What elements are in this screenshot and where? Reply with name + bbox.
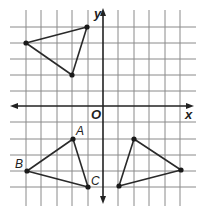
x-axis-left-arrow-icon (10, 103, 18, 109)
vertex-b-label: B (15, 157, 23, 171)
origin-label: O (91, 107, 101, 122)
vertex-c-label: C (91, 174, 100, 188)
vertex-a-point (70, 136, 75, 141)
x-axis (10, 103, 194, 109)
vertex-point (84, 24, 89, 29)
vertex-point (131, 136, 136, 141)
vertex-point (116, 183, 121, 188)
vertex-point (23, 40, 28, 45)
x-axis-label: x (184, 107, 193, 122)
vertex-c-point (85, 184, 90, 189)
vertex-point (178, 167, 183, 172)
bottom-right-triangle (116, 136, 183, 188)
vertex-a-label: A (75, 124, 84, 138)
coordinate-grid: y x O A B C (0, 0, 198, 214)
y-axis-label: y (93, 6, 102, 21)
y-axis-down-arrow-icon (100, 196, 106, 204)
vertex-b-point (24, 168, 29, 173)
vertex-point (69, 72, 74, 77)
